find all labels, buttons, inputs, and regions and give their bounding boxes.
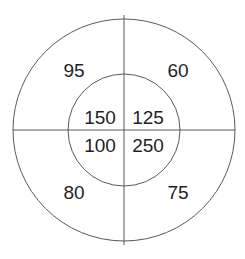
outer-quadrant-top-left-value: 95 <box>63 61 84 80</box>
outer-quadrant-bottom-left-value: 80 <box>63 183 84 202</box>
outer-quadrant-bottom-right-value: 75 <box>167 183 188 202</box>
diagram-canvas <box>0 0 245 259</box>
concentric-circles-diagram: 95 60 80 75 150 125 100 250 <box>0 0 245 259</box>
inner-quadrant-bottom-right-value: 250 <box>132 136 164 155</box>
inner-quadrant-top-left-value: 150 <box>84 108 116 127</box>
inner-quadrant-bottom-left-value: 100 <box>84 136 116 155</box>
outer-quadrant-top-right-value: 60 <box>167 61 188 80</box>
inner-quadrant-top-right-value: 125 <box>132 108 164 127</box>
